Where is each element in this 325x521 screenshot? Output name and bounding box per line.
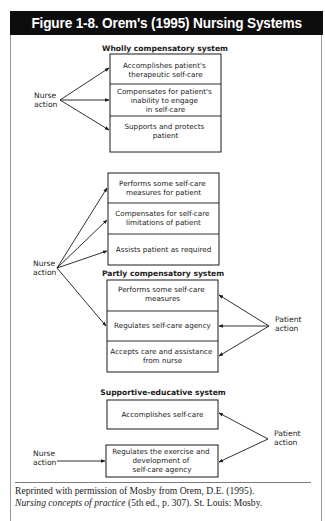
supportive-nurse-action-label: Nurse action [33, 449, 58, 467]
partly-nurse-box-3-text: Assists patient as required [116, 245, 211, 254]
wholly-compensatory-system: Wholly compensatory system Accomplishes … [34, 44, 228, 152]
supportive-educative-system: Supportive-educative system Accomplishes… [33, 388, 303, 477]
partly-patient-box-1-text: Performs some self-care measures [118, 285, 207, 303]
partly-patient-arrows [219, 295, 269, 356]
wholly-box-1-text: Accomplishes patient's therapeutic self-… [123, 61, 208, 79]
supportive-box-1-text: Accomplishes self-care [122, 410, 204, 419]
partly-patient-box-2-text: Regulates self-care agency [114, 321, 212, 330]
figure-citation: Reprinted with permission of Mosby from … [15, 485, 315, 509]
citation-details: (5th ed., p. 307). St. Louis: Mosby. [126, 497, 263, 508]
wholly-nurse-arrows [60, 68, 109, 130]
partly-nurse-box-1-text: Performs some self-care measures for pat… [119, 179, 208, 197]
partly-nurse-action-label: Nurse action [33, 259, 58, 277]
supportive-patient-action-label: Patient action [274, 429, 303, 447]
partly-compensatory-nurse-box: Performs some self-care measures for pat… [108, 173, 219, 265]
partly-patient-action-label: Patient action [275, 315, 304, 333]
partly-nurse-arrows [57, 188, 107, 326]
citation-book-title: Nursing concepts of practice [15, 497, 126, 508]
citation-line-1: Reprinted with permission of Mosby from … [15, 485, 315, 497]
wholly-system-title: Wholly compensatory system [102, 44, 228, 53]
partly-patient-box-3-text: Accepts care and assistance from nurse [110, 347, 214, 365]
partly-system-title: Partly compensatory system [102, 269, 224, 278]
wholly-box-3-text: Supports and protects patient [124, 122, 206, 140]
wholly-nurse-action-label: Nurse action [34, 91, 59, 109]
wholly-box-2-text: Compensates for patient's inability to e… [117, 87, 214, 114]
footer-divider [15, 482, 311, 483]
partly-nurse-box-2-text: Compensates for self-care limitations of… [115, 209, 211, 227]
partly-compensatory-patient-box: Performs some self-care measures Regulat… [107, 280, 218, 372]
supportive-box-2-text: Regulates the exercise and development o… [112, 447, 212, 474]
supportive-system-title: Supportive-educative system [100, 388, 226, 397]
citation-line-2: Nursing concepts of practice (5th ed., p… [15, 497, 315, 509]
supportive-patient-arrows [219, 413, 268, 462]
